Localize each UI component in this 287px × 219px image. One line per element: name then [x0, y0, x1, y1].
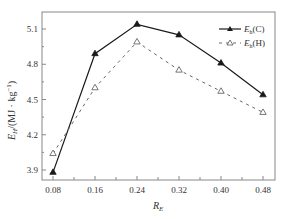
- open-triangle-marker: [134, 38, 140, 44]
- x-tick-label: 0.40: [213, 185, 229, 195]
- series-layer: [50, 21, 266, 175]
- x-axis: 0.080.160.240.320.400.48: [45, 176, 271, 195]
- legend-item-c: Eh(C): [219, 24, 265, 35]
- series-c-line: [53, 24, 263, 172]
- x-tick-label: 0.08: [45, 185, 61, 195]
- y-axis: 3.94.24.54.85.1: [27, 24, 46, 175]
- plot-frame: [42, 12, 275, 180]
- x-axis-title: RE: [152, 200, 164, 213]
- y-axis-title: EH/(MJ · kg−1): [5, 81, 19, 141]
- filled-triangle-marker: [260, 91, 266, 97]
- y-tick-label: 5.1: [27, 24, 38, 34]
- x-tick-label: 0.16: [87, 185, 103, 195]
- x-tick-label: 0.32: [171, 185, 187, 195]
- svg-text:Eh(H): Eh(H): [243, 38, 265, 49]
- legend-item-h: Eh(H): [219, 38, 265, 49]
- filled-triangle-marker: [134, 21, 140, 27]
- y-tick-label: 4.5: [27, 95, 39, 105]
- x-tick-label: 0.48: [255, 185, 271, 195]
- filled-triangle-marker: [218, 60, 224, 65]
- y-tick-label: 3.9: [27, 165, 39, 175]
- svg-text:Eh(C): Eh(C): [243, 24, 265, 35]
- open-triangle-marker: [176, 67, 182, 73]
- open-triangle-marker: [50, 150, 56, 156]
- line-chart: 3.94.24.54.85.1 0.080.160.240.320.400.48…: [0, 0, 287, 219]
- x-tick-label: 0.24: [129, 185, 145, 195]
- y-tick-label: 4.2: [27, 130, 38, 140]
- y-tick-label: 4.8: [27, 59, 39, 69]
- filled-triangle-marker: [50, 169, 56, 175]
- open-triangle-marker: [92, 84, 98, 90]
- open-triangle-marker: [218, 88, 224, 94]
- filled-triangle-marker: [92, 50, 98, 56]
- series-h-line: [53, 42, 263, 154]
- legend: Eh(C) Eh(H): [219, 24, 265, 49]
